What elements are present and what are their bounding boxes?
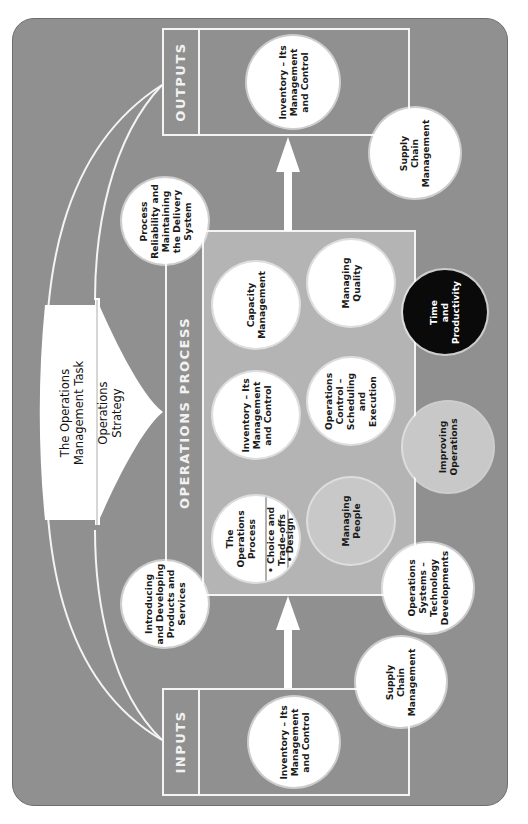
improving-operations-circle: Improving Operations xyxy=(403,402,493,492)
introducing-products-circle: Introducing and Developing Products and … xyxy=(122,561,208,647)
operations-process-label: OPERATIONS PROCESS xyxy=(172,313,196,513)
process-inventory-circle: Inventory – Its Management and Control xyxy=(213,372,299,458)
operations-control-circle: Operations Control – Scheduling and Exec… xyxy=(308,358,394,444)
inputs-label: INPUTS xyxy=(168,692,192,792)
operations-strategy-title: Operations Strategy xyxy=(92,373,128,453)
time-and-productivity-circle: Time and Productivity xyxy=(403,270,487,354)
inputs-inventory-circle: Inventory – Its Management and Control xyxy=(249,697,339,787)
capacity-management-circle: Capacity Management xyxy=(213,262,299,348)
inputs-supply-chain-circle: Supply Chain Management xyxy=(356,637,446,727)
process-reliability-circle: Process Reliability and Maintaining the … xyxy=(122,178,208,264)
outputs-supply-chain-circle: Supply Chain Management xyxy=(370,108,460,198)
managing-quality-circle: Managing Quality xyxy=(308,240,394,326)
outputs-inventory-circle: Inventory – Its Management and Control xyxy=(247,36,339,128)
managing-people-circle: Managing People xyxy=(308,478,394,564)
operations-systems-technology-circle: Operations Systems – Technology Developm… xyxy=(383,543,473,633)
operations-management-task-title: The Operations Management Task xyxy=(54,363,90,463)
outputs-label: OUTPUTS xyxy=(168,32,192,132)
the-operations-process-circle: The Operations Process • Choice and Trad… xyxy=(213,496,299,582)
